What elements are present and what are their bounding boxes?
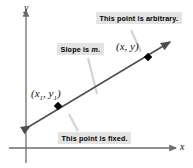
leader-line-fixed (69, 114, 78, 131)
callout-fixed: This point is fixed. (58, 132, 131, 144)
callout-slope-prefix: Slope is (61, 45, 92, 54)
y-axis-label: y (24, 3, 28, 13)
callout-arbitrary: This point is arbitrary. (96, 12, 182, 24)
fixed-point-label: (x1, y1) (31, 88, 61, 102)
paren-close: ) (57, 87, 61, 99)
arbitrary-point-label: (x, y) (116, 41, 139, 52)
x-axis-label: x (180, 142, 184, 152)
fixed-point-dot (54, 102, 62, 110)
paren-close: ) (135, 40, 139, 52)
callout-slope: Slope is m. (57, 43, 104, 55)
point-slope-line-diagram: y x (x, y) (x1, y1) This point is arbitr… (0, 0, 193, 168)
callout-slope-suffix: . (98, 45, 100, 54)
